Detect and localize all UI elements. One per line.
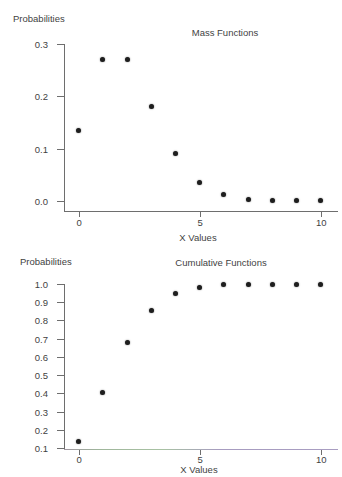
data-point [125,57,130,62]
data-point [246,282,251,287]
data-point [270,198,275,203]
x-tick-label: 5 [188,454,212,465]
y-tick-label: 0.8 [14,315,48,326]
y-tick-mark [57,339,64,340]
data-point [125,340,130,345]
y-tick-label: 0.5 [14,370,48,381]
y-tick-label: 0.4 [14,388,48,399]
y-tick-mark [57,393,64,394]
y-tick-label: 1.0 [14,279,48,290]
y-tick-mark [57,302,64,303]
data-point [149,104,154,109]
y-axis-line [64,284,65,450]
y-tick-mark [57,320,64,321]
data-point [197,180,202,185]
data-point [294,282,299,287]
data-point [270,282,275,287]
data-point [100,390,105,395]
y-tick-label: 0.3 [14,39,48,50]
y-tick-label: 0.3 [14,407,48,418]
x-tick-label: 5 [188,217,212,228]
y-axis-title: Probabilities [13,13,65,24]
y-tick-label: 0.2 [14,91,48,102]
data-point [294,198,299,203]
figure-canvas: Probabilities Mass Functions X Values 0.… [0,0,342,477]
data-point [221,192,226,197]
y-tick-mark [57,357,64,358]
y-tick-mark [57,412,64,413]
y-tick-mark [57,96,64,97]
x-tick-label: 10 [309,217,333,228]
data-point [246,197,251,202]
data-point [76,439,81,444]
x-tick-label: 0 [67,217,91,228]
y-tick-mark [57,284,64,285]
y-tick-label: 0.1 [14,443,48,454]
y-axis-line [64,44,65,212]
data-point [149,308,154,313]
chart-title: Cumulative Functions [175,257,266,268]
y-axis-title: Probabilities [20,256,72,267]
y-tick-label: 0.9 [14,297,48,308]
y-tick-label: 0.6 [14,352,48,363]
data-point [76,128,81,133]
data-point [100,57,105,62]
data-point [197,285,202,290]
data-point [318,282,323,287]
y-tick-mark [57,201,64,202]
y-tick-mark [57,149,64,150]
chart-title: Mass Functions [192,27,259,38]
y-tick-mark [57,430,64,431]
data-point [318,198,323,203]
x-axis-title: X Values [180,464,217,475]
y-tick-mark [57,448,64,449]
data-point [173,291,178,296]
x-tick-label: 0 [67,454,91,465]
y-tick-mark [57,375,64,376]
x-tick-label: 10 [309,454,333,465]
y-tick-label: 0.0 [14,196,48,207]
x-axis-line [64,211,338,212]
data-point [173,151,178,156]
x-axis-line [64,449,338,450]
y-tick-label: 0.7 [14,334,48,345]
y-tick-label: 0.2 [14,425,48,436]
data-point [221,282,226,287]
y-tick-mark [57,44,64,45]
y-tick-label: 0.1 [14,144,48,155]
x-axis-title: X Values [179,232,216,243]
